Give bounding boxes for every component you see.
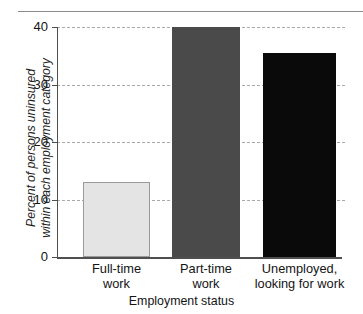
y-tick-label-20: 20 <box>8 135 48 148</box>
y-tick-mark-10 <box>52 200 58 201</box>
y-tick-label-30: 30 <box>8 78 48 91</box>
x-category-label-3-line-1: Unemployed, <box>240 261 360 276</box>
y-tick-mark-0 <box>52 257 58 258</box>
y-tick-label-40: 40 <box>8 20 48 33</box>
y-tick-label-0: 0 <box>8 250 48 263</box>
y-tick-label-10: 10 <box>8 193 48 206</box>
x-axis-title: Employment status <box>0 294 363 308</box>
x-category-label-3-line-2: looking for work <box>240 276 360 291</box>
bar-1[interactable] <box>83 182 150 257</box>
bar-2[interactable] <box>172 27 240 257</box>
bar-chart-figure: Percent of persons uninsured within each… <box>0 0 363 314</box>
x-axis-line <box>57 257 342 259</box>
y-tick-mark-20 <box>52 142 58 143</box>
x-category-label-3: Unemployed,looking for work <box>240 261 360 291</box>
bar-3[interactable] <box>263 53 336 257</box>
y-tick-mark-40 <box>52 27 58 28</box>
plot-area <box>57 27 345 257</box>
top-divider-rule <box>18 11 363 12</box>
y-tick-mark-30 <box>52 85 58 86</box>
